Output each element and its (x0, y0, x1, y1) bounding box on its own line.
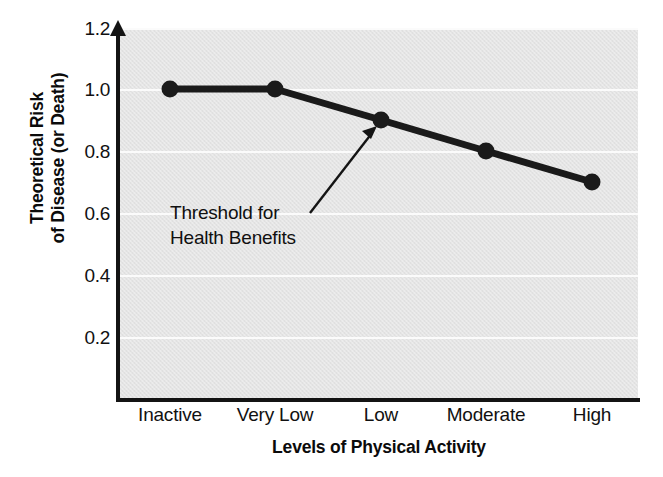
annotation-label: Threshold for Health Benefits (170, 200, 296, 250)
x-axis-line (116, 398, 640, 402)
y-axis-title-line-1: Theoretical Risk (27, 0, 48, 323)
y-axis-title: Theoretical Risk of Disease (or Death) (27, 0, 83, 323)
chart-figure: 1.2 1.0 0.8 0.6 0.4 0.2 Threshold for He… (0, 0, 663, 477)
annotation-line-2: Health Benefits (170, 225, 296, 250)
y-tick-label: 0.2 (64, 328, 110, 347)
annotation-line-1: Threshold for (170, 200, 296, 225)
y-axis-title-line-2: of Disease (or Death) (48, 0, 69, 323)
gridline-0.4 (120, 275, 638, 277)
gridline-1.0 (120, 89, 638, 91)
gridline-0.2 (120, 337, 638, 339)
x-tick-label-moderate: Moderate (447, 404, 526, 426)
x-tick-label-low: Low (364, 404, 398, 426)
x-tick-label-very-low: Very Low (237, 404, 314, 426)
y-axis-line (116, 34, 120, 402)
y-axis-arrow-icon (110, 20, 126, 36)
x-tick-labels: Inactive Very Low Low Moderate High (120, 404, 638, 432)
x-tick-label-inactive: Inactive (138, 404, 202, 426)
x-axis-title: Levels of Physical Activity (120, 437, 638, 458)
gridline-0.8 (120, 151, 638, 153)
x-tick-label-high: High (573, 404, 611, 426)
gridline-1.2 (120, 28, 638, 30)
